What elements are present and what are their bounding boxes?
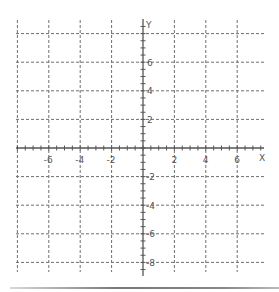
coordinate-plane: -6-4-2246642-2-4-6-8 X Y <box>0 0 279 292</box>
y-tick-label: -4 <box>146 201 155 211</box>
x-tick-label: -2 <box>107 155 116 165</box>
y-tick-label: 4 <box>147 86 153 96</box>
y-tick-label: -2 <box>146 172 155 182</box>
x-tick-label: -6 <box>44 155 53 165</box>
x-tick-label: 4 <box>203 155 209 165</box>
x-tick-label: 6 <box>234 155 240 165</box>
x-tick-label: 2 <box>171 155 177 165</box>
y-tick-label: -8 <box>146 258 155 268</box>
y-tick-label: 2 <box>147 115 153 125</box>
axes <box>16 19 264 276</box>
x-axis-label: X <box>259 153 265 163</box>
y-tick-label: -6 <box>146 229 155 239</box>
y-axis-label: Y <box>145 20 152 30</box>
x-tick-label: -4 <box>75 155 84 165</box>
y-tick-label: 6 <box>147 58 153 68</box>
bottom-divider <box>10 287 279 289</box>
